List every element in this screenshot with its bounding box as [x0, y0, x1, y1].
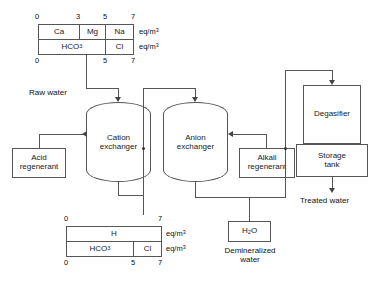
acid-regenerant-feed-line	[39, 134, 87, 135]
raw-cation-cell-mg: Mg	[79, 24, 106, 40]
treated-anion-cell-hco3: HCO3	[66, 241, 134, 257]
degasifier-riser-junction-dot	[284, 147, 287, 150]
storage-tank-label-line2: tank	[318, 161, 346, 170]
treated-unit-cations-text: eq/m	[166, 229, 183, 238]
treated-water-label: Treated water	[300, 196, 349, 205]
storage-tank-box: Storage tank	[296, 144, 368, 177]
cation-bottom-outlet	[118, 181, 119, 195]
cation-outlet-to-table	[143, 195, 144, 215]
cation-to-anion-riser	[143, 88, 144, 195]
raw-top-tick-7: 7	[131, 13, 135, 21]
treated-unit-anions-exp: 3	[183, 244, 186, 250]
treated-bot-tick-0: 0	[64, 259, 68, 267]
raw-anion-cell-hco3: HCO3	[38, 39, 106, 55]
acid-regenerant-riser	[39, 134, 40, 149]
raw-anion-hco3-text: HCO	[62, 43, 80, 51]
water-product-box: H2O	[228, 221, 271, 242]
alkali-regenerant-feed-arrow	[228, 131, 233, 137]
raw-top-tick-5: 5	[103, 13, 107, 21]
raw-bot-tick-7: 7	[131, 57, 135, 65]
treated-top-tick-7: 7	[158, 215, 162, 223]
raw-cation-cell-na: Na	[105, 24, 134, 40]
raw-unit-cations: eq/m3	[139, 28, 159, 36]
raw-unit-cations-exp: 3	[156, 27, 159, 33]
cation-exchanger-label-line1: Cation	[100, 133, 137, 142]
anion-exchanger-label-line1: Anion	[177, 133, 214, 142]
acid-regenerant-box: Acid regenerant	[12, 148, 66, 178]
anion-exchanger-body: Anion exchanger	[163, 113, 228, 171]
degasifier-box: Degasifier	[303, 85, 361, 144]
raw-bot-tick-0: 0	[35, 57, 39, 65]
treated-anion-hco3-sub: 3	[107, 246, 110, 252]
cation-exchanger-vessel: Cation exchanger	[86, 102, 151, 182]
treated-cation-cell-h: H	[66, 226, 162, 242]
degasifier-label: Degasifier	[314, 110, 350, 119]
cation-to-anion-junction-dot	[142, 147, 145, 150]
raw-water-label: Raw water	[29, 88, 67, 97]
demineralized-water-label: Demineralized water	[214, 246, 286, 264]
alkali-regenerant-label-line2: regenerant	[248, 163, 287, 172]
anion-exchanger-label-line2: exchanger	[177, 142, 214, 151]
treated-unit-cations: eq/m3	[166, 230, 186, 238]
raw-unit-anions-text: eq/m	[139, 42, 156, 51]
water-formula-o: O	[251, 226, 257, 235]
treated-bot-tick-5: 5	[131, 259, 135, 267]
raw-top-tick-3: 3	[76, 13, 80, 21]
raw-cation-cell-ca: Ca	[38, 24, 80, 40]
raw-water-header-line	[86, 88, 119, 89]
demineralized-water-line2: water	[214, 255, 286, 264]
cation-exchanger-body: Cation exchanger	[86, 113, 151, 171]
alkali-regenerant-box: Alkali regenerant	[239, 148, 295, 178]
raw-water-drop-line	[86, 55, 87, 88]
treated-anion-cell-cl: Cl	[133, 241, 162, 257]
raw-anion-hco3-sub: 3	[79, 44, 82, 50]
cation-exchanger-label-line2: exchanger	[100, 142, 137, 151]
raw-anion-cell-cl: Cl	[105, 39, 134, 55]
acid-regenerant-feed-arrow	[82, 131, 87, 137]
treated-anion-hco3-text: HCO	[90, 245, 108, 253]
demineralization-flow-diagram: 0 3 5 7 Ca Mg Na eq/m3 HCO3 Cl eq/m3 0 5…	[0, 0, 376, 284]
alkali-regenerant-riser	[266, 134, 267, 149]
alkali-regenerant-feed-line	[233, 134, 267, 135]
treated-unit-cations-exp: 3	[183, 229, 186, 235]
raw-top-tick-0: 0	[35, 13, 39, 21]
degasifier-inlet-run	[285, 70, 333, 71]
raw-unit-anions: eq/m3	[139, 43, 159, 51]
anion-inlet-arrow	[192, 97, 198, 102]
treated-unit-anions-text: eq/m	[166, 244, 183, 253]
cation-outlet-run	[118, 195, 143, 196]
treated-unit-anions: eq/m3	[166, 245, 186, 253]
anion-outlet-to-water-box	[249, 197, 250, 221]
treated-bot-tick-7: 7	[158, 259, 162, 267]
treated-water-outlet-arrow	[329, 188, 335, 193]
degasifier-riser	[285, 70, 286, 198]
acid-regenerant-label-line2: regenerant	[20, 163, 59, 172]
demineralized-water-line1: Demineralized	[214, 246, 286, 255]
anion-exchanger-vessel: Anion exchanger	[163, 102, 228, 182]
treated-top-tick-0: 0	[64, 215, 68, 223]
raw-unit-cations-text: eq/m	[139, 27, 156, 36]
raw-unit-anions-exp: 3	[156, 42, 159, 48]
raw-bot-tick-5: 5	[103, 57, 107, 65]
anion-outlet-header	[195, 197, 285, 198]
cation-to-anion-crossover	[143, 88, 195, 89]
water-formula: H2O	[242, 227, 257, 236]
anion-bottom-outlet	[195, 181, 196, 197]
